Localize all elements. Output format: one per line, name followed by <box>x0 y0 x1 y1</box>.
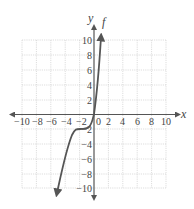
x-axis-label: x <box>180 107 187 121</box>
svg-text:10: 10 <box>161 116 171 127</box>
svg-text:4: 4 <box>120 116 125 127</box>
svg-text:6: 6 <box>135 116 140 127</box>
svg-text:10: 10 <box>82 35 92 46</box>
y-axis-label: y <box>87 11 94 25</box>
svg-text:8: 8 <box>149 116 154 127</box>
svg-text:−4: −4 <box>81 139 92 150</box>
svg-text:−8: −8 <box>81 169 92 180</box>
curve-label: f <box>102 15 107 29</box>
svg-text:0: 0 <box>96 116 101 127</box>
svg-text:−6: −6 <box>81 154 92 165</box>
svg-text:2: 2 <box>87 95 92 106</box>
svg-text:−6: −6 <box>46 116 57 127</box>
function-graph: x y f −10 −8 −6 −4 −2 0 2 4 6 8 10 10 8 … <box>0 0 194 209</box>
svg-text:4: 4 <box>87 80 92 91</box>
svg-text:2: 2 <box>106 116 111 127</box>
svg-text:−8: −8 <box>32 116 43 127</box>
svg-text:−10: −10 <box>76 183 92 194</box>
svg-text:8: 8 <box>87 50 92 61</box>
svg-text:6: 6 <box>87 65 92 76</box>
svg-text:−4: −4 <box>61 116 72 127</box>
svg-text:−10: −10 <box>14 116 30 127</box>
